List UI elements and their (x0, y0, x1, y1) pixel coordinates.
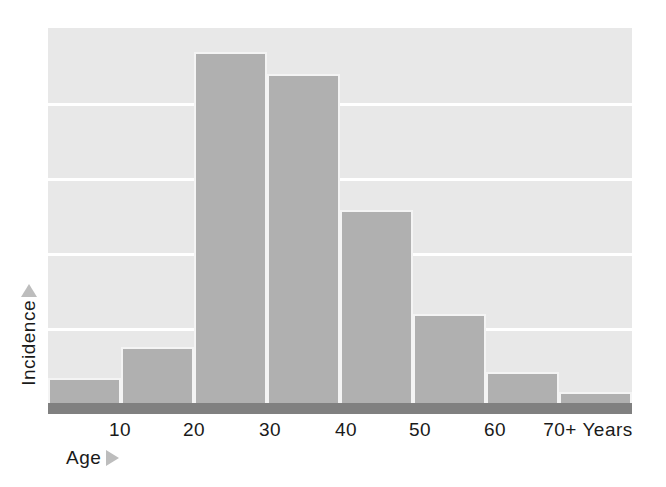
gridline-60 (48, 178, 632, 181)
triangle-right-icon (106, 450, 119, 466)
x-axis-title-group: Age (66, 447, 119, 469)
x-tick-label-30: 30 (259, 419, 281, 441)
bar-age-20-30[interactable] (194, 52, 267, 403)
histogram-figure: 10 20 30 40 50 60 70+ Years Age Incidenc… (0, 0, 666, 487)
x-axis-title: Age (66, 447, 101, 469)
gridline-80 (48, 103, 632, 106)
x-tick-label-70plus-years: 70+ Years (543, 419, 633, 441)
x-axis-baseline (48, 403, 632, 414)
triangle-up-icon (21, 284, 37, 297)
y-axis-title: Incidence (18, 300, 40, 386)
y-axis-title-group: Incidence (18, 284, 40, 386)
x-tick-label-60: 60 (484, 419, 506, 441)
bar-age-30-40[interactable] (267, 74, 340, 403)
plot-area (48, 28, 632, 403)
bar-age-0-10[interactable] (48, 378, 121, 403)
bar-age-10-20[interactable] (121, 347, 194, 403)
x-tick-label-50: 50 (409, 419, 431, 441)
x-tick-label-10: 10 (109, 419, 131, 441)
bar-age-50-60[interactable] (413, 314, 486, 403)
bar-age-60-70[interactable] (486, 372, 559, 403)
x-tick-label-40: 40 (335, 419, 357, 441)
bar-age-70plus[interactable] (559, 392, 632, 403)
bar-age-40-50[interactable] (340, 210, 413, 403)
x-axis-tick-labels: 10 20 30 40 50 60 70+ Years (48, 419, 648, 445)
x-tick-label-20: 20 (183, 419, 205, 441)
